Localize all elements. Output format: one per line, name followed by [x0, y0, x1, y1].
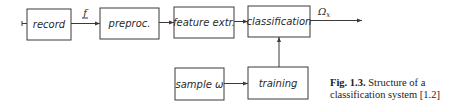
classification-node: classification	[247, 6, 312, 37]
sample-node: sample ω	[175, 68, 224, 100]
input-terminal	[22, 21, 27, 26]
record-node: record	[27, 9, 71, 40]
preproc-node: preproc.	[100, 8, 159, 39]
feature-extraction-node: feature extr.	[173, 7, 235, 38]
training-label: training	[259, 78, 298, 89]
feature-extraction-label: feature extr.	[173, 17, 235, 28]
figure-number: Fig. 1.3.	[330, 77, 366, 88]
training-node: training	[248, 67, 308, 99]
omega-symbol: Ω	[317, 6, 326, 17]
classification-label: classification	[247, 16, 312, 27]
caption-line-2: classification system [1.2]	[330, 89, 440, 101]
record-label: record	[33, 19, 66, 30]
caption-line-1: Structure of a	[368, 77, 425, 88]
preproc-label: preproc.	[108, 18, 151, 29]
signal-f-label: f	[82, 7, 89, 18]
output-omega-label: Ωx	[317, 6, 330, 19]
omega-subscript: x	[326, 11, 330, 19]
sample-label: sample ω	[176, 79, 224, 90]
figure-caption: Fig. 1.3. Structure of a classification …	[330, 77, 440, 101]
